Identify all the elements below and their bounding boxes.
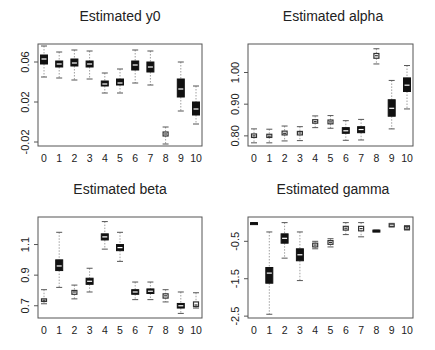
x-tick-label: 1 [56, 324, 62, 336]
x-tick-label: 9 [178, 152, 184, 164]
x-tick-label: 9 [389, 152, 395, 164]
box-3 [296, 232, 303, 281]
box-2 [71, 285, 77, 299]
box-7 [358, 223, 364, 237]
x-tick-label: 4 [102, 152, 108, 164]
x-tick-label: 7 [358, 324, 364, 336]
box-3 [297, 127, 303, 141]
x-tick-label: 5 [328, 324, 334, 336]
box-3 [86, 51, 93, 79]
x-tick-label: 1 [56, 152, 62, 164]
box-10 [404, 226, 410, 230]
x-tick-label: 1 [266, 152, 272, 164]
y-tick-label: 1.00 [229, 62, 241, 83]
box-1 [56, 232, 63, 287]
x-tick-label: 10 [401, 324, 413, 336]
box-6 [132, 282, 139, 300]
x-tick-label: 2 [71, 152, 77, 164]
box-9 [177, 292, 184, 313]
x-tick-label: 4 [312, 152, 318, 164]
x-tick-label: 9 [389, 324, 395, 336]
x-tick-label: 6 [343, 152, 349, 164]
box-4 [312, 116, 318, 128]
box-5 [117, 69, 124, 93]
box-10 [404, 66, 411, 109]
box-10 [193, 86, 200, 124]
box-6 [343, 223, 349, 235]
y-tick-label: -0.5 [229, 232, 241, 251]
box-3 [86, 268, 93, 292]
x-tick-label: 3 [297, 152, 303, 164]
box-2 [281, 223, 288, 259]
y-tick-label: 0.90 [229, 93, 241, 114]
box-4 [312, 241, 318, 248]
box-2 [71, 50, 78, 80]
x-tick-label: 3 [297, 324, 303, 336]
box-8 [163, 127, 169, 144]
y-tick-label: -1.5 [229, 269, 241, 288]
box-0 [41, 290, 47, 304]
box-7 [147, 282, 154, 300]
x-tick-label: 9 [178, 324, 184, 336]
plot-estimated-gamma: -0.5-1.5-2.5012345678910 [229, 217, 413, 336]
x-tick-label: 3 [87, 324, 93, 336]
x-tick-label: 7 [358, 152, 364, 164]
box-5 [328, 116, 334, 129]
box-6 [342, 121, 349, 141]
x-tick-label: 8 [163, 152, 169, 164]
x-tick-label: 5 [117, 152, 123, 164]
x-tick-label: 10 [190, 324, 202, 336]
box-0 [41, 46, 48, 77]
box-4 [101, 73, 108, 93]
x-tick-label: 3 [87, 152, 93, 164]
x-tick-label: 1 [266, 324, 272, 336]
x-tick-label: 8 [163, 324, 169, 336]
box-7 [358, 119, 365, 140]
box-7 [147, 51, 154, 85]
y-tick-label: 0.9 [19, 268, 31, 283]
boxplot-grid: 0.060.02-0.02012345678910 1.000.900.8001… [0, 0, 435, 350]
box-9 [177, 62, 184, 111]
box-0 [251, 129, 257, 143]
x-tick-label: 2 [282, 324, 288, 336]
box-1 [56, 52, 63, 78]
box-8 [373, 49, 379, 64]
x-tick-label: 10 [401, 152, 413, 164]
x-tick-label: 4 [312, 324, 318, 336]
box-9 [388, 80, 395, 128]
x-tick-label: 8 [373, 152, 379, 164]
box-0 [251, 223, 258, 225]
x-tick-label: 6 [132, 152, 138, 164]
x-tick-label: 2 [282, 152, 288, 164]
plot-estimated-beta: 1.10.90.7012345678910 [19, 217, 202, 336]
x-tick-label: 6 [132, 324, 138, 336]
y-tick-label: 0.06 [19, 51, 31, 72]
x-tick-label: 0 [41, 324, 47, 336]
x-tick-label: 7 [147, 152, 153, 164]
plot-estimated-alpha: 1.000.900.80012345678910 [229, 44, 413, 164]
x-tick-label: 0 [251, 324, 257, 336]
y-tick-label: 0.80 [229, 125, 241, 146]
x-tick-label: 0 [251, 152, 257, 164]
box-4 [101, 222, 108, 250]
box-1 [266, 232, 273, 314]
x-tick-label: 0 [41, 152, 47, 164]
x-tick-label: 5 [117, 324, 123, 336]
y-tick-label: 1.1 [19, 237, 31, 252]
x-tick-label: 6 [343, 324, 349, 336]
box-1 [266, 129, 272, 143]
box-6 [132, 50, 139, 83]
x-tick-label: 10 [190, 152, 202, 164]
y-tick-label: 0.02 [19, 91, 31, 112]
x-tick-label: 4 [102, 324, 108, 336]
x-tick-label: 2 [71, 324, 77, 336]
x-tick-label: 7 [147, 324, 153, 336]
box-2 [282, 126, 288, 141]
x-tick-label: 5 [328, 152, 334, 164]
box-10 [193, 293, 199, 308]
box-5 [328, 239, 334, 247]
x-tick-label: 8 [373, 324, 379, 336]
plot-frame [248, 44, 413, 146]
box-8 [163, 290, 169, 302]
y-tick-label: -2.5 [229, 307, 241, 326]
